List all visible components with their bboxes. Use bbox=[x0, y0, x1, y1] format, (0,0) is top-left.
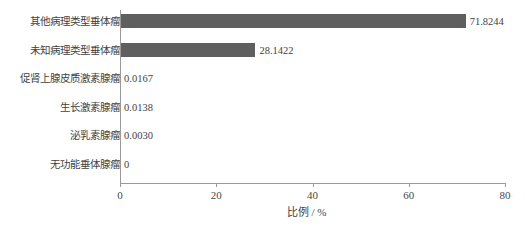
category-label: 其他病理类型垂体瘤 bbox=[8, 16, 120, 28]
x-axis-tick-label: 0 bbox=[117, 189, 123, 202]
y-axis-line bbox=[120, 10, 121, 184]
x-axis-tick bbox=[505, 183, 506, 187]
bar-chart: 其他病理类型垂体瘤 71.8244 未知病理类型垂体瘤 28.1422 促肾上腺… bbox=[0, 0, 528, 231]
chart-row: 促肾上腺皮质激素腺瘤 0.0167 bbox=[0, 67, 528, 96]
category-label: 无功能垂体腺瘤 bbox=[8, 159, 120, 171]
x-axis-tick-label: 20 bbox=[211, 189, 222, 202]
chart-row: 生长激素腺瘤 0.0138 bbox=[0, 96, 528, 125]
value-label: 0.0138 bbox=[124, 102, 153, 114]
chart-row: 其他病理类型垂体瘤 71.8244 bbox=[0, 10, 528, 39]
value-label: 28.1422 bbox=[259, 45, 293, 57]
x-axis-tick-label: 80 bbox=[500, 189, 511, 202]
x-axis-tick bbox=[216, 183, 217, 187]
x-axis-title-text: 比例 / % bbox=[287, 206, 327, 219]
x-axis-title: 比例 / % bbox=[0, 206, 528, 219]
value-label: 0.0030 bbox=[124, 130, 153, 142]
value-label: 0.0167 bbox=[124, 73, 153, 85]
bar bbox=[120, 43, 255, 57]
category-label: 生长激素腺瘤 bbox=[8, 102, 120, 114]
chart-row: 未知病理类型垂体瘤 28.1422 bbox=[0, 39, 528, 68]
value-label: 71.8244 bbox=[470, 16, 504, 28]
chart-row: 泌乳素腺瘤 0.0030 bbox=[0, 124, 528, 153]
x-axis-tick bbox=[313, 183, 314, 187]
category-label: 未知病理类型垂体瘤 bbox=[8, 45, 120, 57]
x-axis-tick bbox=[120, 183, 121, 187]
bar bbox=[120, 14, 466, 28]
x-axis-tick bbox=[409, 183, 410, 187]
value-label: 0 bbox=[124, 159, 129, 171]
category-label: 泌乳素腺瘤 bbox=[8, 130, 120, 142]
category-label: 促肾上腺皮质激素腺瘤 bbox=[8, 73, 120, 85]
chart-row: 无功能垂体腺瘤 0 bbox=[0, 153, 528, 182]
x-axis-tick-label: 60 bbox=[403, 189, 414, 202]
x-axis-tick-label: 40 bbox=[307, 189, 318, 202]
